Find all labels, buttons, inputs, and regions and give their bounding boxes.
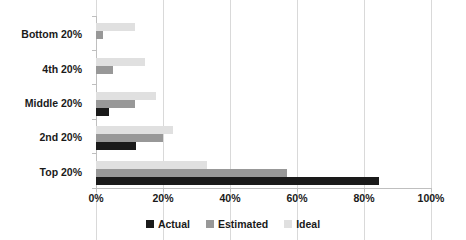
bar-estimated-4 [96, 169, 287, 177]
legend-item-actual[interactable]: Actual [146, 218, 190, 230]
bar-estimated-2 [96, 100, 135, 108]
legend-label-actual: Actual [158, 218, 190, 230]
gridline-40 [230, 0, 231, 240]
x-tick-label-100: 100% [401, 192, 461, 204]
bar-actual-3 [96, 142, 136, 150]
bar-ideal-3 [96, 126, 173, 134]
x-tick-label-0: 0% [66, 192, 126, 204]
gridline-20 [163, 0, 164, 240]
bar-ideal-0 [96, 23, 135, 31]
category-label-3: 2nd 20% [0, 131, 82, 143]
bar-ideal-2 [96, 92, 156, 100]
category-label-0: Bottom 20% [0, 28, 82, 40]
x-tick-label-80: 80% [334, 192, 394, 204]
bar-ideal-4 [96, 161, 207, 169]
y-tick-5 [92, 188, 96, 189]
x-tick-label-40: 40% [200, 192, 260, 204]
bar-actual-4 [96, 177, 379, 185]
bar-chart: Bottom 20%4th 20%Middle 20%2nd 20%Top 20… [0, 0, 466, 240]
legend-label-estimated: Estimated [218, 218, 268, 230]
bar-estimated-1 [96, 66, 113, 74]
legend-swatch-icon-actual [146, 220, 154, 228]
legend-item-ideal[interactable]: Ideal [284, 218, 320, 230]
legend-label-ideal: Ideal [296, 218, 320, 230]
y-tick-2 [92, 84, 96, 85]
gridline-60 [297, 0, 298, 240]
x-tick-label-60: 60% [267, 192, 327, 204]
gridline-80 [364, 0, 365, 240]
category-label-1: 4th 20% [0, 63, 82, 75]
y-tick-0 [92, 16, 96, 17]
x-tick-label-20: 20% [133, 192, 193, 204]
legend-swatch-icon-ideal [284, 220, 292, 228]
y-tick-1 [92, 50, 96, 51]
y-tick-4 [92, 153, 96, 154]
category-label-2: Middle 20% [0, 97, 82, 109]
legend-item-estimated[interactable]: Estimated [206, 218, 268, 230]
bar-estimated-3 [96, 134, 163, 142]
x-axis-line [96, 188, 431, 189]
y-tick-3 [92, 119, 96, 120]
legend-swatch-icon-estimated [206, 220, 214, 228]
bar-estimated-0 [96, 31, 103, 39]
chart-legend: ActualEstimatedIdeal [0, 218, 466, 230]
category-label-4: Top 20% [0, 166, 82, 178]
gridline-100 [431, 0, 432, 240]
bar-ideal-1 [96, 58, 145, 66]
bar-actual-2 [96, 108, 109, 116]
